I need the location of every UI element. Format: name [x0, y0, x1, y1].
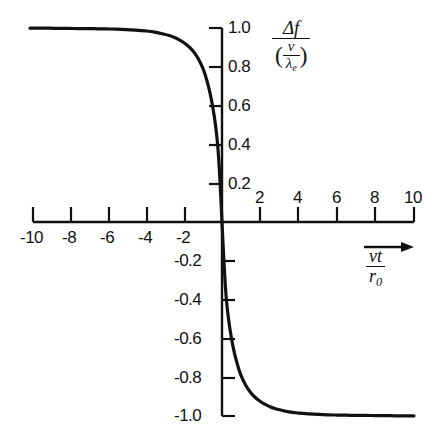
- y-tick-label-neg-0-8: -0.8: [174, 368, 201, 388]
- x-axis-title: vt r0: [366, 247, 385, 289]
- y-axis-title-inner-denominator: λe: [283, 56, 300, 74]
- plot-canvas: [0, 0, 445, 436]
- y-axis-title-numerator: Δf: [272, 18, 310, 39]
- x-tick-label-10: 10: [404, 188, 422, 208]
- x-axis-title-fraction: vt r0: [366, 247, 385, 289]
- frequency-shift-figure: -10 -8 -6 -4 -2 2 4 6 8 10 1.0 0.8 0.6 0…: [0, 0, 445, 436]
- x-axis-ticks-negative: [33, 207, 185, 222]
- y-axis-title-inner-numerator: v: [283, 39, 300, 56]
- x-axis-title-denominator: r0: [366, 267, 385, 289]
- x-axis-title-numerator: vt: [366, 247, 385, 267]
- y-tick-label-0-4: 0.4: [228, 135, 250, 155]
- y-axis-title-close-paren: ): [300, 44, 308, 68]
- y-tick-label-neg-1-0: -1.0: [174, 406, 201, 426]
- x-tick-label-neg-4: -4: [138, 228, 152, 248]
- y-tick-label-0-8: 0.8: [228, 57, 250, 77]
- x-tick-label-4: 4: [293, 188, 302, 208]
- y-axis-title: Δf ( v λe ): [272, 18, 310, 74]
- y-axis-title-inner-fraction: v λe: [283, 39, 300, 74]
- y-tick-label-0-2: 0.2: [228, 174, 250, 194]
- r-subscript: 0: [376, 275, 382, 289]
- y-axis-title-fraction: Δf ( v λe ): [272, 18, 310, 74]
- y-axis-title-denominator: ( v λe ): [272, 39, 310, 74]
- r-symbol: r: [369, 266, 376, 286]
- x-tick-label-neg-2: -2: [176, 228, 190, 248]
- x-tick-label-neg-6: -6: [100, 228, 114, 248]
- x-tick-label-neg-8: -8: [62, 228, 76, 248]
- x-axis-ticks-positive: [260, 207, 414, 222]
- y-tick-label-neg-0-2: -0.2: [174, 251, 201, 271]
- y-tick-label-neg-0-4: -0.4: [174, 290, 201, 310]
- y-tick-label-neg-0-6: -0.6: [174, 329, 201, 349]
- x-tick-label-8: 8: [370, 188, 379, 208]
- y-axis-title-open-paren: (: [275, 44, 283, 68]
- x-tick-label-neg-10: -10: [20, 228, 43, 248]
- x-tick-label-2: 2: [255, 188, 264, 208]
- x-tick-label-6: 6: [332, 188, 341, 208]
- lambda-subscript: e: [292, 62, 297, 73]
- y-tick-label-1-0: 1.0: [228, 18, 250, 38]
- y-tick-label-0-6: 0.6: [228, 96, 250, 116]
